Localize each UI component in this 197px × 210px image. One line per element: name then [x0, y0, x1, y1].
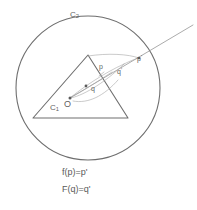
label-origin-o: O [64, 100, 71, 109]
label-point-p: p [99, 63, 103, 70]
arc-apex-to-p-prime [88, 54, 139, 58]
label-inner-triangle-c1: C1 [50, 104, 59, 113]
label-point-q: q [91, 85, 95, 92]
figure-canvas [0, 0, 197, 210]
label-point-q-prime: q' [117, 68, 122, 75]
outer-circle-c2 [16, 16, 160, 160]
equation-cap-f-of-q: F(q)=q' [62, 185, 90, 194]
inner-triangle-c1 [33, 55, 128, 118]
equation-f-of-p: f(p)=p' [62, 168, 87, 177]
point-marker-q [85, 85, 88, 88]
label-point-p-prime: p' [137, 55, 142, 62]
label-outer-circle-c2: C2 [70, 11, 79, 20]
geometry-figure: C2 C1 O p q q' p' f(p)=p' F(q)=q' [0, 0, 197, 210]
